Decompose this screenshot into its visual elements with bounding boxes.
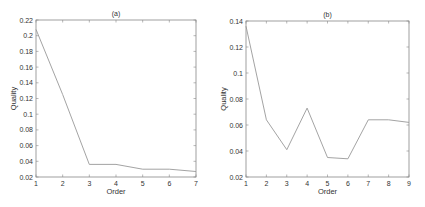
x-tick-label: 8 <box>387 180 391 187</box>
y-tick-label: 0.06 <box>19 142 33 149</box>
x-tick-label: 2 <box>264 180 268 187</box>
y-tick-label: 0.14 <box>229 18 243 25</box>
x-tick-label: 5 <box>141 180 145 187</box>
y-axis-label: Quality <box>219 87 228 111</box>
data-line <box>36 29 196 171</box>
y-tick-label: 0.12 <box>229 44 243 51</box>
x-tick-label: 1 <box>244 180 248 187</box>
y-axis-label: Quality <box>9 87 18 111</box>
y-tick-label: 0.02 <box>19 174 33 181</box>
x-tick-label: 4 <box>114 180 118 187</box>
figure: 0.020.040.060.080.10.120.140.160.180.20.… <box>0 0 425 207</box>
y-tick-label: 0.1 <box>233 70 243 77</box>
x-axis-label: Order <box>318 187 338 196</box>
data-line <box>246 26 409 159</box>
y-tick-label: 0.04 <box>229 148 243 155</box>
y-tick-label: 0.02 <box>229 174 243 181</box>
y-tick-label: 0.08 <box>229 96 243 103</box>
y-tick-label: 0.04 <box>19 158 33 165</box>
y-tick-label: 0.2 <box>23 32 33 39</box>
x-tick-label: 6 <box>167 180 171 187</box>
chart-b: 0.020.040.060.080.10.120.14123456789(b)O… <box>219 11 411 196</box>
x-tick-label: 1 <box>34 180 38 187</box>
y-tick-label: 0.12 <box>19 95 33 102</box>
y-tick-label: 0.16 <box>19 64 33 71</box>
chart-title: (b) <box>323 11 332 19</box>
x-tick-label: 3 <box>285 180 289 187</box>
plot-area <box>246 21 409 177</box>
plot-area <box>36 20 196 177</box>
x-tick-label: 7 <box>366 180 370 187</box>
y-tick-label: 0.14 <box>19 79 33 86</box>
x-tick-label: 4 <box>305 180 309 187</box>
x-tick-label: 3 <box>87 180 91 187</box>
x-tick-label: 7 <box>194 180 198 187</box>
x-tick-label: 9 <box>407 180 411 187</box>
y-tick-label: 0.08 <box>19 126 33 133</box>
x-tick-label: 6 <box>346 180 350 187</box>
x-axis-label: Order <box>106 187 126 196</box>
chart-a: 0.020.040.060.080.10.120.140.160.180.20.… <box>9 10 198 196</box>
x-tick-label: 2 <box>61 180 65 187</box>
x-tick-label: 5 <box>326 180 330 187</box>
y-tick-label: 0.18 <box>19 48 33 55</box>
chart-title: (a) <box>112 10 121 18</box>
y-tick-label: 0.22 <box>19 17 33 24</box>
y-tick-label: 0.06 <box>229 122 243 129</box>
y-tick-label: 0.1 <box>23 111 33 118</box>
